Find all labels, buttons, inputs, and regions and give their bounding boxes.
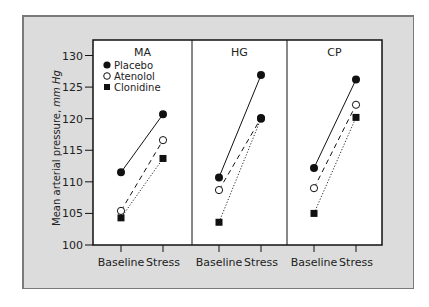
y-axis: 100105110115120125130 xyxy=(62,50,93,253)
panel-title: HG xyxy=(231,46,248,59)
marker-open-circle xyxy=(159,137,166,144)
legend-marker-filled-circle xyxy=(103,61,110,68)
y-tick-label: 115 xyxy=(62,144,83,157)
marker-filled-circle xyxy=(257,114,265,122)
legend-label: Clonidine xyxy=(114,82,161,93)
y-tick-label: 130 xyxy=(62,50,83,63)
marker-open-circle xyxy=(117,207,124,214)
marker-filled-square xyxy=(118,214,125,221)
x-tick-label: Baseline xyxy=(98,256,145,269)
x-tick-label: Baseline xyxy=(291,256,338,269)
marker-filled-square xyxy=(353,114,360,121)
marker-open-circle xyxy=(352,101,359,108)
marker-filled-square xyxy=(311,210,318,217)
marker-filled-circle xyxy=(257,71,265,79)
marker-open-circle xyxy=(310,185,317,192)
x-tick-label: Stress xyxy=(146,256,180,269)
marker-open-circle xyxy=(215,186,222,193)
marker-filled-square xyxy=(160,155,167,162)
x-tick-label: Stress xyxy=(244,256,278,269)
x-tick-label: Baseline xyxy=(196,256,243,269)
panel-title: CP xyxy=(327,46,342,59)
chart: 100105110115120125130 Mean arterial pres… xyxy=(0,0,429,307)
marker-filled-circle xyxy=(352,76,360,84)
marker-filled-circle xyxy=(310,164,318,172)
marker-filled-circle xyxy=(215,173,223,181)
y-tick-label: 105 xyxy=(62,207,83,220)
legend-label: Placebo xyxy=(114,60,153,71)
x-tick-label: Stress xyxy=(339,256,373,269)
marker-filled-circle xyxy=(117,168,125,176)
y-axis-label: Mean arterial pressure, mm Hg xyxy=(51,70,62,226)
panel-title: MA xyxy=(134,46,151,59)
marker-filled-square xyxy=(216,219,223,226)
legend-marker-open-circle xyxy=(104,73,111,80)
y-tick-label: 110 xyxy=(62,176,83,189)
y-tick-label: 120 xyxy=(62,113,83,126)
y-tick-label: 100 xyxy=(62,239,83,252)
legend-label: Atenolol xyxy=(114,71,155,82)
marker-filled-circle xyxy=(159,110,167,118)
legend-marker-filled-square xyxy=(104,84,110,90)
y-tick-label: 125 xyxy=(62,81,83,94)
